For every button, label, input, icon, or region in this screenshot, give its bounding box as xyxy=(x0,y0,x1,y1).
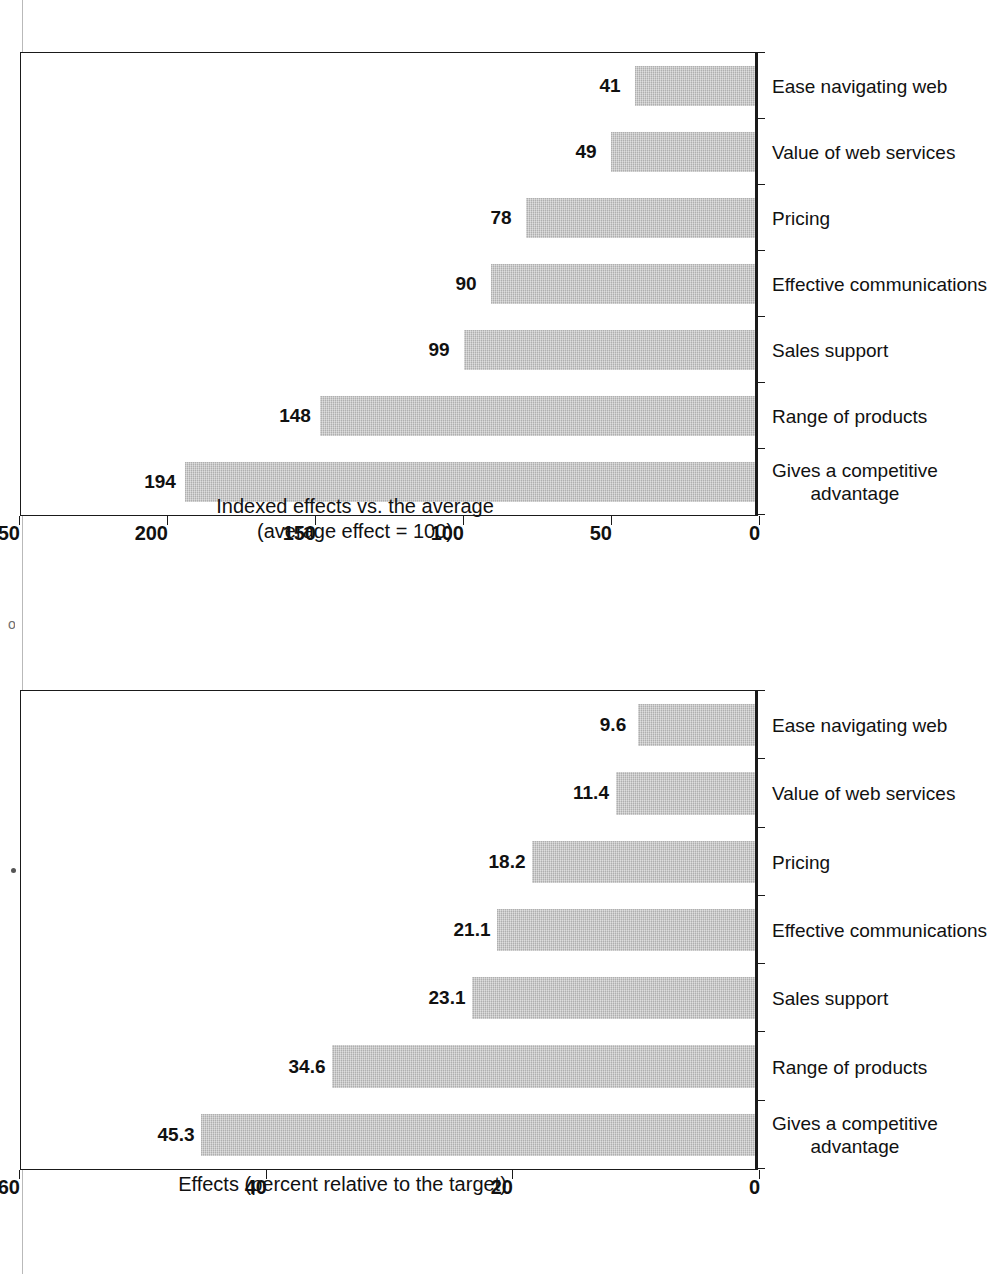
category-tick xyxy=(757,1100,765,1101)
axis-title-absolute: Effects (percent relative to the target) xyxy=(123,1172,563,1197)
category-labels-relative: Gives a competitive advantageRange of pr… xyxy=(766,53,776,515)
category-slot: Value of web services xyxy=(766,119,776,185)
value-axis-tick-label: 0 xyxy=(749,1177,760,1200)
category-ticks-relative xyxy=(757,53,765,515)
bar xyxy=(320,396,755,437)
category-label: Value of web services xyxy=(772,141,955,164)
category-label: Gives a competitive advantage xyxy=(772,459,938,505)
bar-slot: 49 xyxy=(21,119,755,185)
bar xyxy=(472,977,755,1019)
category-tick xyxy=(757,448,765,449)
category-label: Gives a competitive advantage xyxy=(772,1112,938,1158)
bar-slot: 45.3 xyxy=(21,1101,755,1169)
bar-slot: 18.2 xyxy=(21,828,755,896)
category-label: Ease navigating web xyxy=(772,75,947,98)
category-label: Pricing xyxy=(772,850,830,873)
category-slot: Ease navigating web xyxy=(766,53,776,119)
bar xyxy=(638,704,755,746)
category-tick xyxy=(757,827,765,828)
category-slot: Gives a competitive advantage xyxy=(766,449,776,515)
bar xyxy=(332,1045,755,1087)
category-tick xyxy=(757,690,765,691)
bar xyxy=(497,909,755,951)
bar-group-relative: 1941489990784941 xyxy=(21,53,755,515)
bar-value-label: 41 xyxy=(599,75,620,97)
bar-value-label: 21.1 xyxy=(453,919,490,941)
bar xyxy=(635,66,755,107)
bar-value-label: 34.6 xyxy=(288,1056,325,1078)
chart-relative-effects: Relative effects 1941489990784941 050100… xyxy=(0,0,863,634)
bar xyxy=(611,132,755,173)
value-axis-tick-label: 60 xyxy=(0,1177,20,1200)
bar-value-label: 49 xyxy=(576,141,597,163)
plot-area-relative: 1941489990784941 xyxy=(21,53,757,515)
category-tick xyxy=(757,895,765,896)
category-label: Range of products xyxy=(772,405,927,428)
category-ticks-absolute xyxy=(757,691,765,1169)
category-label: Range of products xyxy=(772,1055,927,1078)
category-label: Pricing xyxy=(772,207,830,230)
bar-value-label: 9.6 xyxy=(599,714,625,736)
category-label: Ease navigating web xyxy=(772,714,947,737)
category-tick xyxy=(757,184,765,185)
value-axis-tick-label: 50 xyxy=(590,523,612,546)
category-tick xyxy=(757,1031,765,1032)
category-slot: Range of products xyxy=(766,1032,776,1100)
category-tick xyxy=(757,316,765,317)
category-tick xyxy=(757,963,765,964)
bar-slot: 11.4 xyxy=(21,759,755,827)
category-label: Effective communications xyxy=(772,919,987,942)
category-slot: Sales support xyxy=(766,964,776,1032)
bar-slot: 9.6 xyxy=(21,691,755,759)
chart-absolute-effects: Absolute effects 45.334.623.121.118.211.… xyxy=(0,634,863,1274)
bar-slot: 34.6 xyxy=(21,1032,755,1100)
category-tick xyxy=(757,250,765,251)
category-slot: Effective communications xyxy=(766,251,776,317)
category-slot: Sales support xyxy=(766,317,776,383)
bar-value-label: 11.4 xyxy=(573,782,609,804)
category-label: Sales support xyxy=(772,987,888,1010)
bar-slot: 90 xyxy=(21,251,755,317)
category-tick xyxy=(757,52,765,53)
category-slot: Pricing xyxy=(766,185,776,251)
category-tick xyxy=(757,118,765,119)
bar xyxy=(491,264,755,305)
bar-slot: 21.1 xyxy=(21,896,755,964)
category-labels-absolute: Gives a competitive advantageRange of pr… xyxy=(766,691,776,1169)
bar xyxy=(526,198,755,239)
plot-area-absolute: 45.334.623.121.118.211.49.6 xyxy=(21,691,757,1169)
bar-value-label: 18.2 xyxy=(489,851,526,873)
bar-value-label: 90 xyxy=(455,273,476,295)
bar-slot: 78 xyxy=(21,185,755,251)
bar-value-label: 45.3 xyxy=(157,1124,194,1146)
category-slot: Gives a competitive advantage xyxy=(766,1101,776,1169)
category-tick xyxy=(757,758,765,759)
category-label: Sales support xyxy=(772,339,888,362)
value-axis-tick-label: 0 xyxy=(749,523,760,546)
axis-title-relative: Indexed effects vs. the average (average… xyxy=(135,494,575,544)
bar-value-label: 23.1 xyxy=(429,987,466,1009)
category-label: Effective communications xyxy=(772,273,987,296)
bar-value-label: 148 xyxy=(280,405,312,427)
bar-slot: 41 xyxy=(21,53,755,119)
category-tick xyxy=(757,514,765,515)
category-tick xyxy=(757,1168,765,1169)
category-slot: Pricing xyxy=(766,828,776,896)
category-tick xyxy=(757,382,765,383)
bar xyxy=(464,330,755,371)
bar-group-absolute: 45.334.623.121.118.211.49.6 xyxy=(21,691,755,1169)
bar-slot: 99 xyxy=(21,317,755,383)
bar xyxy=(201,1114,755,1156)
bar xyxy=(532,841,755,883)
category-slot: Range of products xyxy=(766,383,776,449)
value-axis-tick-label: 250 xyxy=(0,523,20,546)
bar-value-label: 99 xyxy=(429,339,450,361)
category-slot: Value of web services xyxy=(766,759,776,827)
bar-slot: 148 xyxy=(21,383,755,449)
bar-slot: 23.1 xyxy=(21,964,755,1032)
bar-value-label: 78 xyxy=(490,207,511,229)
category-slot: Effective communications xyxy=(766,896,776,964)
category-slot: Ease navigating web xyxy=(766,691,776,759)
category-label: Value of web services xyxy=(772,782,955,805)
bar xyxy=(616,772,755,814)
